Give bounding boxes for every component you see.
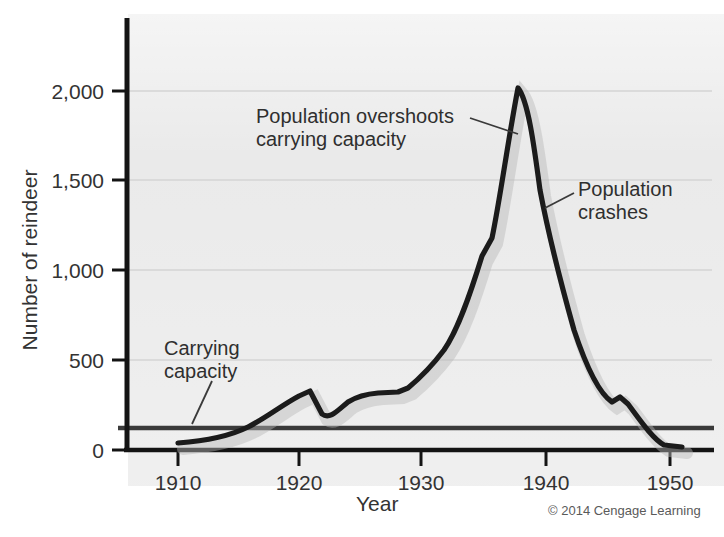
xtick-label-1920: 1920: [259, 472, 339, 493]
y-axis-title: Number of reindeer: [18, 170, 42, 351]
x-axis-title: Year: [356, 492, 398, 516]
ytick-label-2000: 2,000: [20, 81, 104, 102]
annotation-overshoot-line2: carrying capacity: [256, 128, 454, 151]
xtick-label-1950: 1950: [630, 472, 710, 493]
reindeer-population-chart: [0, 0, 724, 537]
annotation-population-overshoots: Population overshoots carrying capacity: [256, 105, 454, 151]
annotation-population-crashes: Population crashes: [578, 178, 673, 224]
annotation-carrying-capacity: Carrying capacity: [164, 337, 240, 383]
xtick-label-1940: 1940: [506, 472, 586, 493]
xtick-label-1910: 1910: [138, 472, 218, 493]
annotation-overshoot-line1: Population overshoots: [256, 105, 454, 128]
y-axis-title-wrap: Number of reindeer: [8, 120, 52, 400]
figure-page: 0 500 1,000 1,500 2,000 1910 1920 1930 1…: [0, 0, 724, 537]
annotation-crashes-line2: crashes: [578, 201, 673, 224]
ytick-label-0: 0: [30, 440, 104, 461]
annotation-crashes-line1: Population: [578, 178, 673, 201]
xtick-label-1930: 1930: [381, 472, 461, 493]
annotation-carrying-line1: Carrying: [164, 337, 240, 360]
copyright-credit: © 2014 Cengage Learning: [548, 503, 701, 518]
annotation-carrying-line2: capacity: [164, 360, 240, 383]
